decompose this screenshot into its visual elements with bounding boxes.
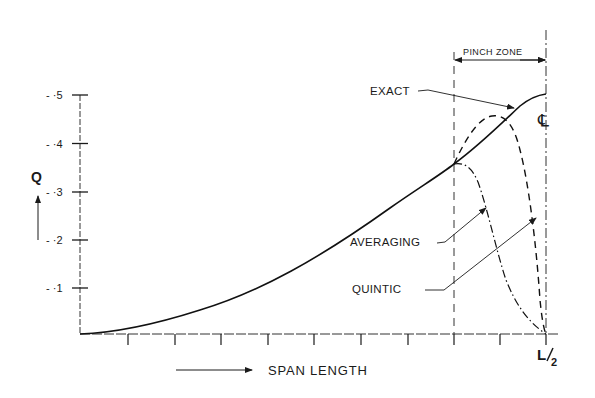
centerline-label: ℄ <box>537 111 549 130</box>
y-tick-label-5: - ·5 <box>46 89 63 101</box>
y-tick-label-3: - ·3 <box>46 186 63 198</box>
svg-text:L: L <box>537 346 546 363</box>
pinch-zone-label: PINCH ZONE <box>463 47 523 57</box>
x-axis-title: SPAN LENGTH <box>268 363 368 378</box>
series-exact <box>80 94 546 334</box>
l-half-label: L 2 <box>537 346 557 368</box>
y-tick-label-1: - ·1 <box>46 282 63 294</box>
callout-averaging-leader <box>437 208 486 243</box>
callout-exact: EXACT <box>370 85 410 97</box>
callout-exact-leader <box>418 90 514 108</box>
svg-text:2: 2 <box>551 356 557 368</box>
y-axis-title: Q <box>31 169 42 185</box>
series-averaging <box>454 116 546 334</box>
y-tick-label-4: - ·4 <box>46 138 63 150</box>
callout-quintic: QUINTIC <box>352 283 401 295</box>
callout-averaging: AVERAGING <box>350 236 420 248</box>
series-quintic <box>454 164 546 334</box>
callout-quintic-leader <box>425 218 536 290</box>
chart: - ·5 - ·4 - ·3 - ·2 - ·1 Q L 2 SPAN LENG… <box>0 0 595 398</box>
x-ticks <box>128 334 546 345</box>
y-tick-label-2: - ·2 <box>46 234 63 246</box>
